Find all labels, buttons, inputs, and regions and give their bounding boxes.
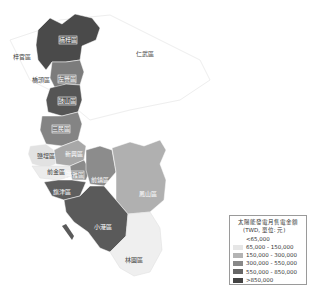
legend-label: >850,000: [246, 276, 273, 284]
legend-swatch: [233, 245, 243, 250]
svg-text:小港區: 小港區: [94, 223, 112, 231]
map-legend: 太陽能發電月售電金額 (TWD, 單位: 元) <65,000 65,000 -…: [229, 215, 307, 285]
legend-swatch: [233, 269, 243, 274]
legend-item: 150,000 - 300,000: [233, 251, 303, 259]
svg-text:新興區: 新興區: [65, 150, 83, 158]
harbour-pier: [62, 224, 74, 240]
legend-title: 太陽能發電月售電金額: [233, 218, 303, 226]
legend-label: 150,000 - 300,000: [246, 251, 297, 259]
legend-label: <65,000: [246, 235, 270, 243]
legend-swatch: [233, 253, 243, 258]
svg-text:鼓山區: 鼓山區: [58, 97, 76, 105]
legend-item: <65,000: [233, 235, 303, 243]
district-fengshan[interactable]: [112, 140, 166, 214]
legend-label: 65,000 - 150,000: [246, 243, 293, 251]
legend-swatch: [233, 236, 243, 241]
svg-text:林園區: 林園區: [125, 256, 143, 264]
legend-subtitle: (TWD, 單位: 元): [233, 226, 303, 234]
legend-label: 550,000 - 850,000: [246, 268, 297, 276]
svg-text:左營區: 左營區: [58, 75, 76, 83]
svg-text:仁武區: 仁武區: [136, 50, 154, 57]
svg-text:前鎮區: 前鎮區: [91, 176, 109, 184]
svg-text:三民區: 三民區: [52, 125, 70, 133]
legend-item: >850,000: [233, 276, 303, 284]
svg-text:梓官區: 梓官區: [13, 53, 31, 61]
svg-text:苓雅區: 苓雅區: [66, 171, 84, 179]
svg-text:鹽埕區: 鹽埕區: [37, 152, 55, 159]
legend-swatch: [233, 261, 243, 266]
svg-text:鳳山區: 鳳山區: [139, 190, 157, 198]
legend-item: 550,000 - 850,000: [233, 268, 303, 276]
legend-item: 300,000 - 550,000: [233, 259, 303, 267]
svg-text:橋頭區: 橋頭區: [32, 76, 50, 84]
district-zuoying[interactable]: [50, 60, 84, 88]
legend-label: 300,000 - 550,000: [246, 259, 297, 267]
legend-item: 65,000 - 150,000: [233, 243, 303, 251]
legend-swatch: [233, 278, 243, 283]
svg-text:旗津區: 旗津區: [53, 188, 71, 196]
svg-text:楠梓區: 楠梓區: [59, 36, 77, 44]
svg-text:前金區: 前金區: [47, 168, 65, 176]
